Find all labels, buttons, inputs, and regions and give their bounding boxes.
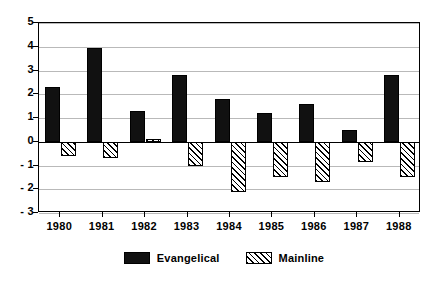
y-tick-label: 0 bbox=[4, 135, 34, 146]
y-tick-label: 4 bbox=[4, 40, 34, 51]
legend-entry-mainline: Mainline bbox=[246, 252, 325, 264]
gridline--1 bbox=[39, 166, 419, 167]
gridline--2 bbox=[39, 189, 419, 190]
y-tick-label: 5 bbox=[4, 16, 34, 27]
x-tick-mark bbox=[59, 212, 60, 217]
bar-evangelical-1982 bbox=[130, 111, 145, 142]
x-tick-mark bbox=[314, 212, 315, 217]
x-tick-label-1985: 1985 bbox=[251, 221, 291, 232]
y-tick-label: 2 bbox=[4, 87, 34, 98]
y-tick-label: 3 bbox=[4, 64, 34, 75]
bar-mainline-1988 bbox=[400, 142, 415, 178]
bar-evangelical-1983 bbox=[172, 75, 187, 142]
x-tick-mark bbox=[356, 212, 357, 217]
bar-evangelical-1985 bbox=[257, 113, 272, 142]
bar-evangelical-1981 bbox=[87, 48, 102, 142]
y-tick-label: - 3 bbox=[4, 206, 34, 217]
x-tick-mark bbox=[102, 212, 103, 217]
y-tick-label: - 2 bbox=[4, 182, 34, 193]
legend-label-evangelical: Evangelical bbox=[157, 252, 220, 264]
bar-evangelical-1986 bbox=[299, 104, 314, 142]
bar-mainline-1986 bbox=[315, 142, 330, 182]
bar-mainline-1982 bbox=[146, 139, 161, 141]
x-tick-mark bbox=[144, 212, 145, 217]
bar-evangelical-1987 bbox=[342, 130, 357, 142]
bar-evangelical-1984 bbox=[215, 99, 230, 142]
x-tick-label-1988: 1988 bbox=[379, 221, 419, 232]
x-tick-mark bbox=[187, 212, 188, 217]
bar-chart: 543210- 1- 2- 3 198019811982198319841985… bbox=[0, 0, 448, 290]
x-tick-label-1983: 1983 bbox=[167, 221, 207, 232]
bar-mainline-1981 bbox=[103, 142, 118, 159]
bar-mainline-1985 bbox=[273, 142, 288, 178]
x-tick-label-1981: 1981 bbox=[82, 221, 122, 232]
legend-entry-evangelical: Evangelical bbox=[124, 252, 220, 264]
x-tick-label-1980: 1980 bbox=[39, 221, 79, 232]
x-tick-mark bbox=[229, 212, 230, 217]
x-tick-label-1984: 1984 bbox=[209, 221, 249, 232]
plot-area bbox=[38, 22, 420, 212]
bar-mainline-1983 bbox=[188, 142, 203, 166]
y-tick-label: 1 bbox=[4, 111, 34, 122]
chart-legend: EvangelicalMainline bbox=[0, 252, 448, 264]
x-tick-label-1986: 1986 bbox=[294, 221, 334, 232]
legend-label-mainline: Mainline bbox=[279, 252, 325, 264]
x-tick-label-1982: 1982 bbox=[124, 221, 164, 232]
bar-mainline-1987 bbox=[358, 142, 373, 162]
bar-mainline-1980 bbox=[61, 142, 76, 156]
bar-evangelical-1988 bbox=[384, 75, 399, 142]
legend-swatch-mainline bbox=[246, 252, 272, 264]
gridline-5 bbox=[39, 23, 419, 24]
x-tick-label-1987: 1987 bbox=[336, 221, 376, 232]
x-tick-mark bbox=[399, 212, 400, 217]
bar-evangelical-1980 bbox=[45, 87, 60, 142]
bar-mainline-1984 bbox=[231, 142, 246, 192]
y-tick-label: - 1 bbox=[4, 159, 34, 170]
x-tick-mark bbox=[271, 212, 272, 217]
legend-swatch-evangelical bbox=[124, 252, 150, 264]
